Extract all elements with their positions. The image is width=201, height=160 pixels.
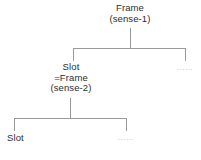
node-slot-frame-sense-2-line1: Slot bbox=[50, 62, 91, 73]
ellipsis-lower-icon: …… bbox=[117, 134, 134, 142]
tree-diagram: Frame (sense-1) …… Slot =Frame (sense-2)… bbox=[0, 0, 201, 160]
node-slot-leaf: Slot bbox=[7, 133, 24, 144]
edge-split-bar-lower bbox=[14, 118, 127, 119]
edge-to-slot-leaf bbox=[14, 118, 15, 131]
node-slot-frame-sense-2: Slot =Frame (sense-2) bbox=[50, 62, 91, 94]
node-slot-leaf-line1: Slot bbox=[7, 133, 24, 144]
node-slot-frame-sense-2-line3: (sense-2) bbox=[50, 83, 91, 94]
edge-slot-frame-stem bbox=[70, 98, 71, 118]
node-frame-sense-1: Frame (sense-1) bbox=[109, 3, 150, 24]
ellipsis-upper-icon: …… bbox=[176, 64, 193, 72]
node-frame-sense-1-line1: Frame bbox=[109, 3, 150, 14]
edge-split-bar-upper bbox=[73, 48, 186, 49]
edge-root-stem bbox=[130, 28, 131, 48]
edge-to-ellipsis-lower bbox=[126, 118, 127, 131]
edge-to-slot-frame bbox=[73, 48, 74, 61]
edge-to-ellipsis-upper bbox=[185, 48, 186, 61]
node-frame-sense-1-line2: (sense-1) bbox=[109, 14, 150, 25]
